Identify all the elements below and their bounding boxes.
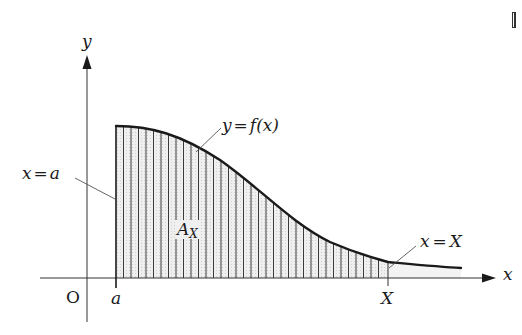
curve-label-lhs: y (222, 115, 232, 135)
leader-x-eq-a (75, 178, 115, 199)
boundary-label-X-eq: = (433, 231, 447, 251)
y-axis-label: y (82, 33, 92, 50)
origin-label: O (66, 289, 80, 306)
leader-curve-label (196, 128, 221, 152)
curve-label: y=f(x) (222, 117, 279, 134)
tick-label-a: a (111, 290, 121, 307)
area-region (110, 120, 468, 280)
boundary-label-a: x=a (22, 165, 60, 182)
curve-label-rhs: f(x) (250, 115, 279, 135)
corner-mark-icon (512, 12, 516, 28)
x-axis-arrow-icon (482, 274, 496, 283)
area-label-main: A (177, 219, 189, 239)
boundary-label-X-var: x (420, 231, 430, 251)
diagram-canvas: y x O y=f(x) x=a x=X a X AX (0, 0, 522, 335)
curve-label-eq: = (234, 115, 248, 135)
y-axis-arrow-icon (83, 55, 92, 69)
boundary-label-a-val: a (50, 163, 60, 183)
boundary-label-a-var: x (22, 163, 32, 183)
boundary-label-a-eq: = (34, 163, 48, 183)
x-axis-label: x (503, 266, 513, 283)
diagram-graphics (0, 0, 522, 335)
area-label: AX (175, 220, 200, 239)
tick-label-X: X (381, 290, 393, 307)
boundary-label-X: x=X (420, 233, 462, 250)
area-label-sub: X (189, 227, 198, 241)
boundary-label-X-val: X (450, 231, 462, 251)
axes (40, 55, 496, 322)
